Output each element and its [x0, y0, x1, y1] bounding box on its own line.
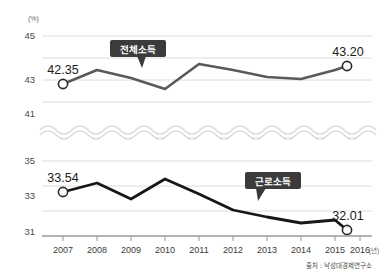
x-axis-unit: (년) — [369, 246, 379, 255]
y-tick-43: 43 — [24, 74, 35, 85]
upper-start-marker — [58, 79, 67, 88]
income-share-line-chart: (%) 45 43 41 35 33 31 42.35 43.20 전체소득 3… — [0, 0, 390, 279]
lower-start-marker — [58, 187, 67, 196]
y-tick-31: 31 — [24, 226, 35, 237]
upper-end-marker — [342, 61, 351, 70]
source-note: 출처 : 낙성대경제연구소 — [306, 261, 372, 270]
axis-break-wave — [40, 126, 376, 139]
callout-earned-income-label: 근로소득 — [255, 176, 291, 187]
x-tick-2012: 2012 — [223, 245, 243, 255]
x-tick-2008: 2008 — [87, 245, 107, 255]
callout-total-income: 전체소득 — [110, 40, 166, 68]
y-tick-33: 33 — [24, 190, 35, 201]
lower-gridlines — [42, 161, 372, 211]
x-tick-2009: 2009 — [121, 245, 141, 255]
x-tick-2011: 2011 — [189, 245, 208, 255]
callout-earned-income: 근로소득 — [245, 172, 301, 201]
x-tick-2016: 2016 — [350, 245, 370, 255]
callout-total-income-label: 전체소득 — [120, 44, 156, 55]
lower-end-marker — [342, 225, 351, 234]
chart-canvas: (%) 45 43 41 35 33 31 42.35 43.20 전체소득 3… — [0, 0, 390, 279]
y-axis-unit: (%) — [28, 15, 39, 23]
x-tickmarks — [63, 236, 360, 241]
lower-start-label: 33.54 — [47, 171, 78, 185]
x-tick-2010: 2010 — [155, 245, 175, 255]
x-tick-2007: 2007 — [53, 245, 73, 255]
lower-end-label: 32.01 — [332, 209, 363, 223]
y-tick-35: 35 — [24, 155, 35, 166]
x-tick-2013: 2013 — [257, 245, 277, 255]
upper-end-label: 43.20 — [332, 45, 363, 59]
x-tick-2014: 2014 — [291, 245, 311, 255]
y-tick-45: 45 — [24, 30, 35, 41]
series-line-total-income — [63, 64, 347, 89]
upper-start-label: 42.35 — [47, 63, 78, 77]
series-line-earned-income — [63, 179, 347, 230]
x-tick-2015: 2015 — [325, 245, 345, 255]
y-tick-41: 41 — [24, 108, 35, 119]
upper-gridlines — [42, 36, 372, 102]
